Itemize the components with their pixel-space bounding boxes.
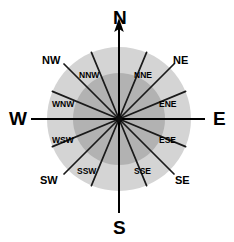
label-southwest: SW [40, 175, 58, 186]
label-east: E [213, 109, 226, 128]
label-southeast: SE [175, 175, 190, 186]
label-west: W [9, 109, 27, 128]
label-west-northwest: WNW [52, 100, 74, 109]
label-northwest: NW [42, 55, 60, 66]
label-north: N [113, 8, 127, 27]
label-east-northeast: ENE [159, 100, 176, 109]
compass-rose-figure: N E S W NW NE SE SW NNW NNE ENE ESE SSE … [0, 0, 234, 242]
label-west-southwest: WSW [52, 136, 74, 145]
label-north-northeast: NNE [134, 71, 152, 80]
center-hub [116, 116, 123, 123]
label-south-southeast: SSE [134, 167, 151, 176]
compass-graphic [0, 0, 234, 242]
label-south-southwest: SSW [77, 167, 96, 176]
label-north-northwest: NNW [79, 71, 99, 80]
label-south: S [113, 218, 126, 237]
label-east-southeast: ESE [159, 136, 176, 145]
label-northeast: NE [173, 55, 188, 66]
